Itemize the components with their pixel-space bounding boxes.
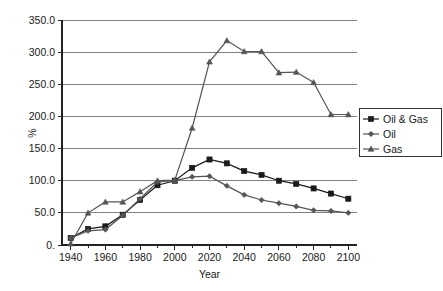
legend-label-oil: Oil (383, 128, 396, 140)
y-tick-label-150: 150.0 (29, 142, 55, 154)
legend-label-gas: Gas (383, 143, 402, 155)
line-chart: 0.50.0100.0150.0200.0250.0300.0350.01940… (0, 0, 443, 291)
x-tick-label-1960: 1960 (94, 251, 118, 263)
x-axis-title: Year (199, 268, 221, 280)
x-tick-label-2000: 2000 (163, 251, 187, 263)
x-tick-label-1940: 1940 (59, 251, 83, 263)
y-tick-label-200: 200.0 (29, 110, 55, 122)
series-marker-oil-gas-2100 (346, 196, 351, 201)
y-tick-label-300: 300.0 (29, 46, 55, 58)
x-tick-label-2040: 2040 (233, 251, 257, 263)
y-tick-label-100: 100.0 (29, 174, 55, 186)
legend-marker-oil-gas (368, 116, 373, 121)
x-tick-label-2080: 2080 (302, 251, 326, 263)
series-marker-oil-gas-2010 (190, 165, 195, 170)
series-marker-oil-gas-2080 (311, 186, 316, 191)
series-marker-oil-gas-2070 (294, 181, 299, 186)
series-marker-oil-gas-2090 (328, 191, 333, 196)
y-axis-title: % (26, 128, 38, 137)
chart-container: 0.50.0100.0150.0200.0250.0300.0350.01940… (0, 0, 443, 291)
x-tick-label-1980: 1980 (128, 251, 152, 263)
series-marker-oil-gas-2060 (276, 178, 281, 183)
x-tick-label-2020: 2020 (198, 251, 222, 263)
y-tick-label-350: 350.0 (29, 14, 55, 26)
series-marker-oil-gas-2030 (224, 161, 229, 166)
series-marker-oil-gas-2020 (207, 157, 212, 162)
y-tick-label-250: 250.0 (29, 78, 55, 90)
y-tick-label-50: 50.0 (35, 206, 56, 218)
x-tick-label-2100: 2100 (337, 251, 361, 263)
series-marker-oil-gas-2050 (259, 172, 264, 177)
legend-label-oil-gas: Oil & Gas (383, 113, 428, 125)
series-marker-oil-gas-2040 (242, 168, 247, 173)
y-tick-label-0: 0. (46, 239, 55, 251)
x-tick-label-2060: 2060 (267, 251, 291, 263)
